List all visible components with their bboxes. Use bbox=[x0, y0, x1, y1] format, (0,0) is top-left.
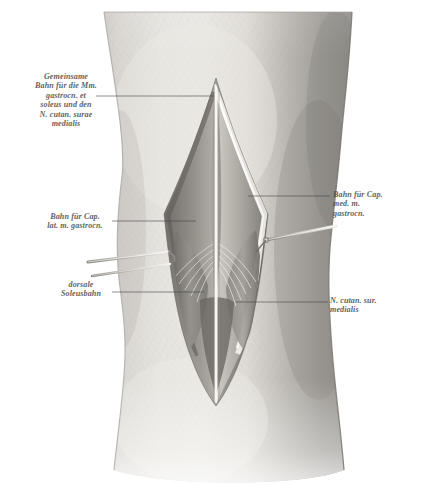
label-n-cutaneus-surae-medialis: N. cutan. sur. medialis bbox=[330, 296, 426, 315]
label-medial-gastrocnemius: Bahn für Cap. med. m. gastrocn. bbox=[333, 190, 425, 218]
label-dorsal-soleus: dorsale Soleusbahn bbox=[40, 280, 122, 299]
label-lateral-gastrocnemius: Bahn für Cap. lat. m. gastrocn. bbox=[26, 212, 124, 231]
label-common-path: Gemeinsame Bahn für die Mm. gastrocn. et… bbox=[14, 72, 118, 128]
